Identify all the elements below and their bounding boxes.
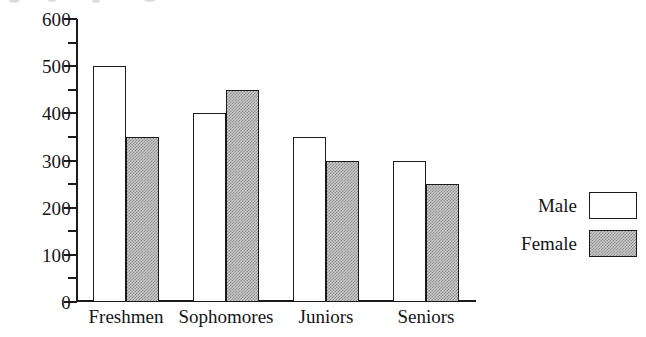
- chart-legend: MaleFemale: [497, 186, 637, 262]
- y-axis-label-200: 200: [42, 199, 71, 218]
- legend-label-male: Male: [538, 196, 577, 215]
- plot-area: [76, 19, 476, 302]
- bar-seniors-female: [426, 184, 459, 302]
- bar-juniors-male: [293, 137, 326, 302]
- bar-freshmen-male: [93, 66, 126, 302]
- bar-juniors-female: [326, 161, 359, 303]
- legend-item-female: Female: [497, 224, 637, 262]
- bar-freshmen-female: [126, 137, 159, 302]
- y-axis-label-400: 400: [42, 104, 71, 123]
- legend-swatch-male: [589, 192, 637, 219]
- y-axis-label-100: 100: [42, 246, 71, 265]
- y-axis-label-500: 500: [42, 57, 71, 76]
- legend-label-female: Female: [521, 234, 577, 253]
- y-axis-label-300: 300: [42, 152, 71, 171]
- scan-artifact: [0, 0, 646, 6]
- legend-item-male: Male: [497, 186, 637, 224]
- bar-sophomores-female: [226, 90, 259, 302]
- legend-swatch-female: [589, 230, 637, 257]
- bar-seniors-male: [393, 161, 426, 303]
- bar-chart: 0100200300400500600 FreshmenSophomoresJu…: [0, 0, 646, 337]
- bar-sophomores-male: [193, 113, 226, 302]
- x-axis-label-seniors: Seniors: [356, 306, 496, 328]
- y-axis-label-600: 600: [42, 10, 71, 29]
